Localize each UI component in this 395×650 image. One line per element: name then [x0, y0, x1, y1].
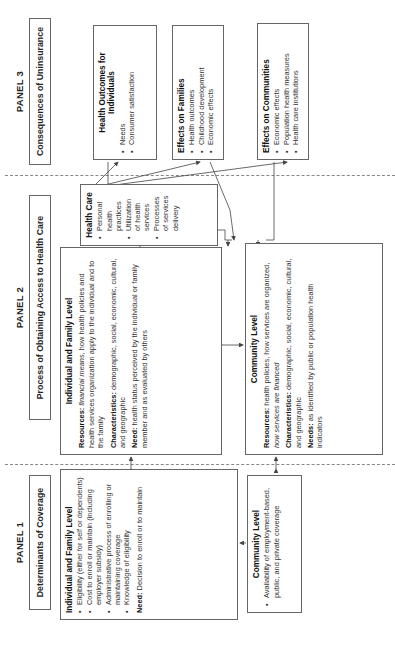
need-label: Need:: [130, 427, 139, 448]
effects-on-families-box: Effects on Families Health outcomes Chil…: [172, 25, 224, 160]
list-item: Knowledge of eligibility: [122, 476, 131, 605]
characteristics-label: Characteristics:: [109, 392, 118, 448]
need-label: Need:: [135, 592, 144, 613]
list-item: Availability of employment-based, public…: [262, 482, 281, 598]
communities-bullets: Economic effects Population health measu…: [272, 30, 300, 153]
p1-individual-heading: Individual and Family Level: [65, 476, 74, 613]
resources-label: Resources:: [77, 408, 86, 448]
list-item: Personal health practices: [95, 191, 123, 231]
list-item: Eligibility (either for self or dependen…: [75, 476, 84, 605]
diagram-canvas: PANEL 1 PANEL 2 PANEL 3 Determinants of …: [0, 0, 395, 650]
p2-individual-need: Need: health status perceived by the ind…: [130, 254, 149, 448]
characteristics-label: Characteristics:: [284, 392, 293, 448]
p2-community-box: Community Level Resources: health polici…: [245, 243, 383, 455]
list-item: Cost to enroll or maintain (including em…: [85, 476, 104, 605]
list-item: Health outcomes: [187, 32, 196, 145]
p1-individual-family-box: Individual and Family Level Eligibility …: [60, 469, 238, 620]
need-text: health status perceived by the individua…: [130, 264, 148, 448]
list-item: Health care institutions: [291, 30, 300, 145]
list-item: Needs: [118, 32, 127, 145]
list-item: Utilization of health services: [124, 191, 152, 231]
p1-community-bullets: Availability of employment-based, public…: [262, 482, 281, 606]
p2-community-heading: Community Level: [250, 250, 259, 448]
resources-label: Resources:: [262, 408, 271, 448]
p1-community-box: Community Level Availability of employme…: [247, 475, 302, 613]
p2-community-needs: Needs: as identified by public or popula…: [306, 250, 325, 448]
list-item: Administrative process of enrolling or m…: [104, 476, 123, 605]
resources-text: health policies, how services are organi…: [262, 263, 271, 408]
health-outcomes-individuals-box: Health Outcomes for Individuals Needs Co…: [93, 25, 157, 160]
health-care-heading: Health Care: [85, 191, 94, 239]
list-item: Childhood development: [197, 32, 206, 145]
p2-individual-characteristics: Characteristics: demographic, social, ec…: [109, 254, 128, 448]
effects-on-communities-box: Effects on Communities Economic effects …: [257, 23, 309, 160]
p2-community-resources: Resources: health policies, how services…: [262, 250, 281, 448]
list-item: Processes of services delivery: [152, 191, 180, 231]
outcomes-heading: Health Outcomes for Individuals: [98, 32, 117, 153]
families-heading: Effects on Families: [177, 32, 186, 153]
p1-community-heading: Community Level: [252, 482, 261, 606]
health-care-bullets: Personal health practices Utilization of…: [95, 191, 180, 239]
list-item: Economic effects: [272, 30, 281, 145]
p2-community-characteristics: Characteristics: demographic, social, ec…: [284, 250, 303, 448]
families-bullets: Health outcomes Childhood development Ec…: [187, 32, 215, 153]
resources-italic: financial means,: [77, 352, 86, 407]
need-text: Decision to enroll or to maintain: [135, 487, 144, 593]
list-item: Economic effects: [206, 32, 215, 145]
p2-individual-family-box: Individual and Family Level Resources: f…: [60, 247, 222, 455]
p1-individual-bullets: Eligibility (either for self or dependen…: [75, 476, 131, 613]
outcomes-bullets: Needs Consumer satisfaction: [118, 32, 137, 153]
needs-label: Needs:: [306, 423, 315, 448]
p2-individual-heading: Individual and Family Level: [65, 254, 74, 448]
resources-italic: how services are financed: [272, 363, 281, 448]
p2-individual-resources: Resources: financial means, how health p…: [77, 254, 105, 448]
communities-heading: Effects on Communities: [262, 30, 271, 153]
list-item: Consumer satisfaction: [127, 32, 136, 145]
list-item: Population health measures: [282, 30, 291, 145]
health-care-box: Health Care Personal health practices Ut…: [80, 184, 218, 246]
p1-need: Need: Decision to enroll or to maintain: [135, 476, 144, 613]
